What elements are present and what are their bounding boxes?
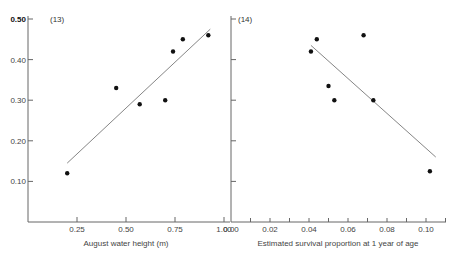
x-tick-label: 0.10 (418, 225, 434, 234)
data-point (181, 37, 185, 41)
data-point (371, 98, 375, 102)
chart-figure: 0.500.400.300.200.100.250.500.751.00(13)… (0, 0, 455, 253)
data-point (138, 102, 142, 106)
panel-label: (14) (238, 15, 253, 24)
x-tick-label: 0.02 (262, 225, 278, 234)
y-tick-label: 0.10 (10, 177, 26, 186)
x-tick-label: 0.25 (69, 225, 85, 234)
x-axis-label: August water height (m) (84, 239, 169, 248)
x-tick-label: 0.08 (379, 225, 395, 234)
x-tick-label: 0.04 (301, 225, 317, 234)
data-point (315, 37, 319, 41)
x-tick-label: 0.06 (340, 225, 356, 234)
regression-line (67, 29, 210, 163)
y-tick-label: 0.40 (10, 56, 26, 65)
panel-14: 0.000.020.040.060.080.10(14)Estimated su… (223, 15, 446, 248)
data-point (428, 169, 432, 173)
data-point (163, 98, 167, 102)
data-point (65, 171, 69, 175)
y-tick-label: 0.30 (10, 96, 26, 105)
data-point (326, 84, 330, 88)
data-point (332, 98, 336, 102)
x-axis-label: Estimated survival proportion at 1 year … (258, 239, 420, 248)
data-point (171, 49, 175, 53)
panel-label: (13) (50, 15, 65, 24)
data-point (309, 49, 313, 53)
data-point (361, 33, 365, 37)
y-tick-label: 0.20 (10, 137, 26, 146)
y-tick-label: 0.50 (10, 15, 26, 24)
data-point (114, 86, 118, 90)
data-point (206, 33, 210, 37)
x-tick-label: 0.75 (167, 225, 183, 234)
x-tick-label: 0.50 (118, 225, 134, 234)
x-tick-label: 0.00 (223, 225, 239, 234)
panel-13: 0.500.400.300.200.100.250.500.751.00(13)… (10, 15, 232, 248)
